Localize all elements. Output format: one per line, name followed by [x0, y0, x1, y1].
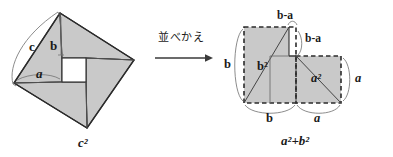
transition-arrow-head	[205, 54, 213, 62]
label-right-left-b: b	[224, 58, 231, 71]
label-left-c: c	[29, 40, 35, 53]
measure-arc-b-left	[235, 29, 243, 101]
label-left-a: a	[36, 67, 43, 80]
measure-arc-ba-top	[288, 21, 297, 25]
caption-left-c-squared: c²	[78, 136, 88, 149]
label-right-top-b-minus-a: b-a	[277, 10, 293, 22]
measure-arc-a-right	[343, 58, 350, 101]
caption-left-text: c²	[78, 135, 88, 150]
transition-label: 並べかえ	[158, 32, 204, 43]
transition-arrow-group	[155, 54, 213, 62]
right-figure-group	[235, 21, 350, 113]
label-small-square-area: a²	[311, 72, 321, 85]
pinwheel-triangle-right	[86, 58, 134, 128]
label-right-bottom-a: a	[314, 112, 320, 125]
caption-right-a2-plus-b2: a²+b²	[281, 134, 309, 147]
label-right-right-a: a	[355, 72, 361, 85]
caption-right-text: a²+b²	[281, 133, 309, 148]
left-figure-group	[12, 12, 134, 128]
top-right-gap	[289, 27, 296, 56]
measure-arc-ba-inner	[298, 31, 302, 55]
diagram-svg	[0, 0, 393, 157]
figure-canvas: c b a c² 並べかえ b-a b-a b b a a b² a² a²+b…	[0, 0, 393, 157]
label-right-bottom-b: b	[266, 112, 273, 125]
inner-white-square	[62, 58, 86, 82]
label-left-b: b	[50, 39, 57, 52]
label-right-inner-b-minus-a: b-a	[305, 33, 321, 45]
label-big-square-area: b²	[257, 60, 268, 73]
